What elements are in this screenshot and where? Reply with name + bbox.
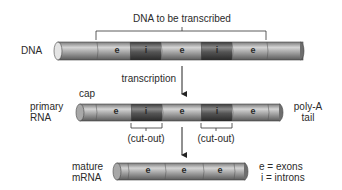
poly-a-label-line1: poly-A	[288, 101, 328, 112]
legend-introns: i = introns	[261, 172, 305, 183]
rna-segment-exon-3: e	[241, 106, 265, 117]
cut-out-bracket-1	[131, 123, 162, 131]
cut-out-bracket-2	[201, 123, 232, 131]
dna-end-cap	[54, 42, 62, 60]
cut-out-label-1: (cut-out)	[122, 133, 170, 144]
mrna-segment-exon-2: e	[172, 165, 196, 176]
transcribed-region-title: DNA to be transcribed	[122, 13, 242, 24]
rna-segment-intron-1: i	[134, 106, 158, 117]
rna-segment-intron-2: i	[205, 106, 229, 117]
mature-mrna-label-line1: mature	[72, 161, 103, 172]
transcription-label: transcription	[100, 73, 176, 84]
poly-a-label-line2: tail	[288, 112, 328, 123]
rna-segment-exon-2: e	[170, 106, 194, 117]
mrna-segment-exon-3: e	[208, 165, 232, 176]
dna-segment-exon-2: e	[170, 45, 194, 56]
dna-segment-exon-3: e	[241, 45, 265, 56]
transcribed-region-bracket	[96, 27, 266, 40]
mature-mrna-label-line2: mRNA	[72, 172, 101, 183]
dna-label: DNA	[21, 45, 42, 56]
cap-label: cap	[79, 88, 95, 99]
primary-rna-label-line2: RNA	[30, 112, 51, 123]
rna-cap-end	[76, 104, 84, 121]
dna-segment-exon-1: e	[105, 45, 129, 56]
dna-segment-intron-2: i	[205, 45, 229, 56]
cut-out-label-2: (cut-out)	[192, 133, 240, 144]
mrna-segment-exon-1: e	[136, 165, 160, 176]
legend-exons: e = exons	[259, 161, 303, 172]
dna-segment-intron-1: i	[134, 45, 158, 56]
primary-rna-label-line1: primary	[30, 101, 63, 112]
rna-segment-exon-1: e	[104, 106, 128, 117]
